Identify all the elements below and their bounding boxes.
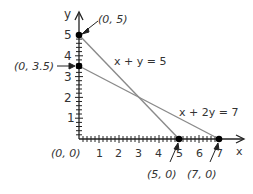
origin-label: (0, 0): [51, 147, 81, 160]
x-tick-5: 5: [176, 147, 183, 160]
x-tick-1: 1: [96, 147, 103, 160]
y-tick-4: 4: [64, 49, 72, 63]
label-0-5: (0, 5): [98, 13, 128, 26]
line-label-x-plus-y-5: x + y = 5: [114, 55, 166, 68]
arrowhead-icon: [69, 63, 75, 69]
point-7-0: [216, 136, 223, 143]
point-0-3.5: [76, 63, 83, 70]
y-tick-2: 2: [64, 91, 72, 105]
line-x-plus-2y-7: [79, 66, 219, 139]
y-tick-1: 1: [67, 111, 75, 125]
label-5-0: (5, 0): [147, 168, 177, 181]
line-x-plus-y-5: [79, 35, 179, 139]
label-7-0: (7, 0): [187, 168, 217, 181]
arrowhead-icon: [82, 28, 89, 34]
point-5-0: [176, 136, 183, 143]
line-label-x-plus-2y-7: x + 2y = 7: [179, 106, 238, 119]
x-tick-6: 6: [196, 147, 203, 160]
x-tick-7: 7: [216, 147, 223, 160]
x-axis-label: x: [236, 145, 243, 158]
label-0-3.5: (0, 3.5): [14, 60, 54, 73]
y-axis-label: y: [64, 7, 71, 21]
y-tick-3: 3: [64, 70, 72, 84]
graph: y x (0, 5) (0, 3.5) (0, 0) (5, 0) (7, 0)…: [0, 0, 253, 194]
x-tick-3: 3: [135, 147, 142, 160]
y-tick-5: 5: [64, 28, 72, 42]
x-tick-4: 4: [155, 147, 162, 160]
x-tick-2: 2: [115, 147, 122, 160]
point-0-5: [76, 32, 83, 39]
